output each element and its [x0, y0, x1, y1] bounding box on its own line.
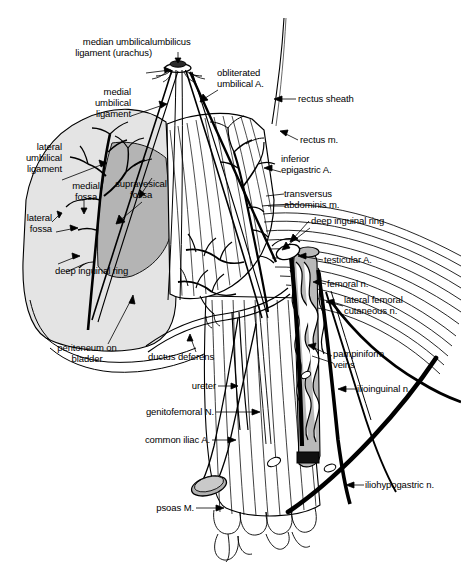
label-medial-umbilical-ligament: medial umbilical ligament — [0, 86, 131, 119]
label-rectus-sheath: rectus sheath — [298, 93, 354, 104]
label-median-umbilical-ligament: median umbilical ligament (urachus) — [0, 36, 152, 58]
rectus-sheath-line — [272, 18, 286, 126]
label-medial-fossa: medial fossa — [64, 180, 108, 202]
label-ductus-deferens: ductus deferens — [148, 351, 214, 362]
label-testicular-artery: testicular A. — [324, 254, 372, 265]
label-psoas-muscle: psoas M. — [146, 502, 194, 513]
label-supravesical-fossa: supravesical fossa — [104, 178, 178, 200]
label-deep-inguinal-ring-left: deep inguinal ring — [55, 265, 128, 276]
anatomical-figure: median umbilical ligament (urachus) umbi… — [0, 0, 461, 574]
label-pampiniform-veins: pampiniform veins — [333, 348, 384, 370]
label-umbilicus: umbilicus — [152, 36, 191, 47]
label-ilioinguinal-nerve: ilioinguinal n. — [357, 383, 410, 394]
label-iliohypogastric-nerve: iliohypogastric n. — [365, 479, 434, 490]
label-lateral-umbilical-ligament: lateral umbilical ligament — [0, 141, 62, 174]
label-lateral-fossa: lateral fossa — [0, 212, 52, 234]
label-peritoneum-on-bladder: peritoneum on bladder — [46, 342, 128, 364]
label-transversus-abdominis: transversus abdominis m. — [284, 188, 339, 210]
label-common-iliac-artery: common iliac A. — [128, 434, 210, 445]
label-femoral-nerve: femoral n. — [327, 278, 368, 289]
label-rectus-muscle: rectus m. — [300, 134, 338, 145]
label-lateral-femoral-cutaneous-nerve: lateral femoral cutaneous n. — [344, 294, 403, 316]
label-deep-inguinal-ring-right: deep inguinal ring — [311, 215, 384, 226]
label-inferior-epigastric-artery: inferior epigastric A. — [281, 153, 331, 175]
label-obliterated-umbilical-artery: obliterated umbilical A. — [217, 67, 264, 89]
label-genitofemoral-nerve: genitofemoral N. — [130, 406, 214, 417]
label-ureter: ureter — [160, 380, 216, 391]
